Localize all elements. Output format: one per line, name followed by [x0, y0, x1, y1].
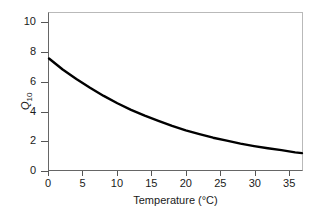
y-axis-tick	[41, 141, 48, 142]
chart-figure: 0246810 Q10 05101520253035 Temperature (…	[0, 0, 315, 217]
x-axis-tick-label: 15	[145, 178, 157, 189]
y-axis-title-subscript: 10	[25, 93, 34, 102]
x-axis-tick-label: 0	[45, 178, 51, 189]
y-axis-title-base: Q	[19, 101, 31, 110]
x-axis-tick	[289, 171, 290, 176]
x-axis-title: Temperature (°C)	[48, 194, 303, 206]
plot-area	[48, 12, 303, 171]
y-axis-tick	[41, 82, 48, 83]
x-axis-tick	[255, 171, 256, 176]
y-axis-tick-label: 10	[24, 16, 36, 27]
y-axis-title: Q10	[6, 70, 22, 110]
x-axis-tick-label: 5	[79, 178, 85, 189]
data-series-line	[49, 58, 302, 153]
x-axis-tick	[48, 171, 49, 176]
y-axis-tick-label: 8	[30, 46, 36, 57]
y-axis-title-text: Q10	[19, 93, 36, 110]
y-axis-tick	[41, 22, 48, 23]
x-axis-tick-label: 30	[249, 178, 261, 189]
y-axis-tick	[41, 52, 48, 53]
y-axis-tick	[41, 112, 48, 113]
y-axis-tick	[41, 171, 48, 172]
x-axis-tick	[82, 171, 83, 176]
curve-svg	[49, 13, 302, 170]
y-axis-tick-label: 6	[30, 76, 36, 87]
y-axis-tick-label: 0	[30, 165, 36, 176]
x-axis-tick-label: 10	[111, 178, 123, 189]
x-axis-tick	[117, 171, 118, 176]
x-axis-tick-label: 25	[214, 178, 226, 189]
y-axis-tick-label: 2	[30, 135, 36, 146]
x-axis-tick	[151, 171, 152, 176]
x-axis-tick-label: 35	[283, 178, 295, 189]
x-axis-tick-label: 20	[180, 178, 192, 189]
x-axis-tick	[186, 171, 187, 176]
x-axis-tick	[220, 171, 221, 176]
